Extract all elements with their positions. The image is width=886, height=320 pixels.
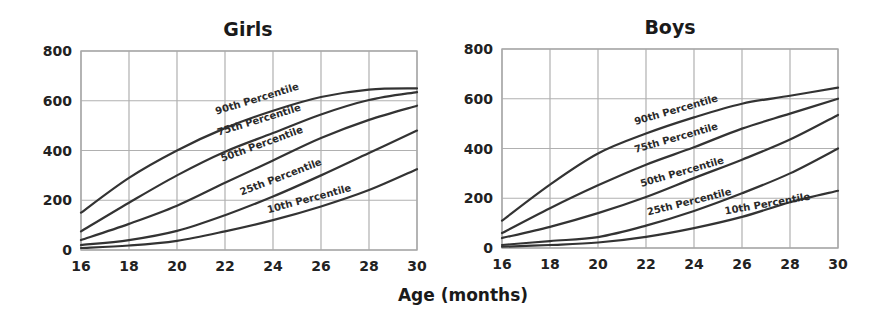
- chart-title: Boys: [644, 16, 695, 38]
- girls-chart: Girls0200400600800161820222426283090th P…: [43, 18, 427, 274]
- x-tick-label: 20: [167, 258, 187, 274]
- x-tick-label: 28: [359, 258, 378, 274]
- x-tick-label: 20: [588, 256, 608, 272]
- boys-chart: Boys0200400600800161820222426283090th Pe…: [464, 16, 848, 272]
- growth-percentile-charts: Girls0200400600800161820222426283090th P…: [0, 0, 886, 320]
- x-tick-label: 22: [636, 256, 655, 272]
- x-tick-label: 26: [311, 258, 330, 274]
- x-tick-label: 28: [780, 256, 799, 272]
- y-tick-label: 400: [43, 143, 72, 159]
- y-tick-label: 0: [483, 240, 493, 256]
- x-tick-label: 24: [263, 258, 283, 274]
- x-axis-label: Age (months): [398, 285, 528, 305]
- x-tick-label: 24: [684, 256, 704, 272]
- y-tick-label: 200: [43, 192, 72, 208]
- y-tick-label: 800: [43, 43, 72, 59]
- percentile-curve: [502, 99, 838, 233]
- chart-title: Girls: [223, 18, 272, 40]
- x-tick-label: 30: [828, 256, 848, 272]
- x-tick-label: 18: [119, 258, 138, 274]
- x-tick-label: 18: [540, 256, 559, 272]
- y-tick-label: 0: [62, 242, 72, 258]
- y-tick-label: 400: [464, 141, 493, 157]
- y-tick-label: 600: [464, 91, 493, 107]
- x-tick-label: 26: [732, 256, 751, 272]
- x-tick-label: 16: [492, 256, 511, 272]
- y-tick-label: 200: [464, 190, 493, 206]
- y-tick-label: 600: [43, 93, 72, 109]
- y-tick-label: 800: [464, 41, 493, 57]
- percentile-curve: [81, 169, 417, 248]
- x-tick-label: 30: [407, 258, 427, 274]
- percentile-label: 25th Percentile: [238, 156, 323, 197]
- percentile-curve: [81, 92, 417, 231]
- x-tick-label: 22: [215, 258, 234, 274]
- x-tick-label: 16: [71, 258, 90, 274]
